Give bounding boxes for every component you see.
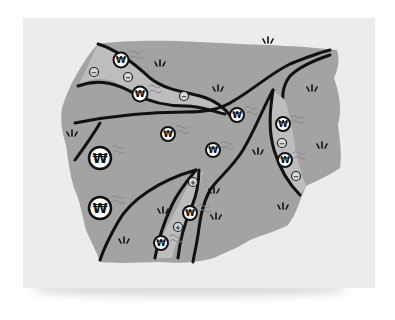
svg-text:−: − [293, 173, 299, 181]
minus-icon: − [90, 68, 99, 77]
svg-text:₩: ₩ [163, 129, 173, 139]
minus-icon: − [124, 73, 133, 82]
svg-text:₩: ₩ [92, 150, 107, 166]
plus-icon: + [189, 178, 198, 187]
svg-text:+: + [190, 179, 196, 187]
svg-text:−: − [279, 140, 285, 148]
svg-text:₩: ₩ [232, 110, 242, 120]
svg-text:₩: ₩ [156, 238, 166, 248]
map-illustration: ₩₩₩₩₩₩₩₩₩₩₩ −−−−−++ [0, 0, 395, 320]
svg-text:−: − [91, 69, 97, 77]
svg-text:₩: ₩ [280, 155, 290, 165]
svg-text:₩: ₩ [208, 145, 218, 155]
svg-text:₩: ₩ [185, 208, 195, 218]
svg-text:−: − [125, 74, 131, 82]
svg-text:₩: ₩ [92, 200, 107, 216]
svg-text:+: + [175, 224, 181, 232]
minus-icon: − [278, 139, 287, 148]
svg-text:−: − [181, 93, 187, 101]
svg-text:₩: ₩ [116, 54, 127, 65]
svg-text:₩: ₩ [135, 88, 146, 99]
minus-icon: − [180, 92, 189, 101]
plus-icon: + [174, 223, 183, 232]
svg-text:₩: ₩ [278, 119, 288, 129]
grass-tuft-icon [263, 37, 273, 43]
minus-icon: − [292, 172, 301, 181]
